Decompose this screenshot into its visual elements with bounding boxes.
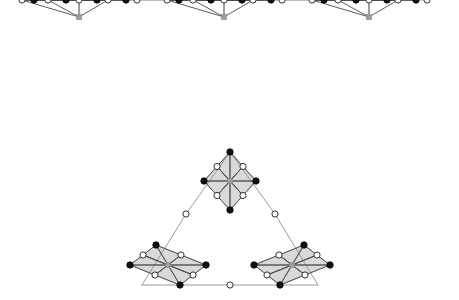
filled-node[interactable] [268, 0, 274, 3]
bottom-right-cluster-mid-node[interactable] [302, 272, 308, 278]
filled-node[interactable] [176, 0, 182, 3]
open-node[interactable] [335, 0, 341, 3]
open-node[interactable] [19, 0, 25, 3]
bottom-left-cluster-hub-node[interactable] [165, 262, 170, 267]
open-node[interactable] [279, 0, 285, 3]
open-node[interactable] [190, 0, 196, 3]
filled-node[interactable] [384, 0, 390, 3]
top-diamond-corner-node[interactable] [227, 207, 233, 213]
bottom-edge-midpoint-node[interactable] [227, 282, 233, 288]
top-diamond-corner-node[interactable] [253, 178, 259, 184]
bottom-right-cluster-mid-node[interactable] [264, 272, 270, 278]
filled-node[interactable] [123, 0, 129, 3]
bottom-left-cluster-corner-node[interactable] [203, 262, 209, 268]
open-node[interactable] [309, 0, 315, 3]
filled-node[interactable] [94, 0, 100, 3]
right-edge-midpoint-node[interactable] [272, 211, 278, 217]
filled-node[interactable] [31, 0, 37, 3]
bottom-right-cluster-corner-node[interactable] [301, 242, 307, 248]
open-node[interactable] [164, 0, 170, 3]
bottom-right-cluster-corner-node[interactable] [327, 262, 333, 268]
open-node[interactable] [134, 0, 140, 3]
figure-svg: Graph diagram: three linked fan clusters… [0, 0, 459, 300]
bottom-left-cluster-mid-node[interactable] [178, 252, 184, 258]
bottom-left-cluster-corner-node[interactable] [177, 282, 183, 288]
bottom-right-cluster-corner-node[interactable] [251, 262, 257, 268]
top-diamond-corner-node[interactable] [227, 149, 233, 155]
bottom-left-cluster-corner-node[interactable] [153, 242, 159, 248]
apex-node[interactable] [367, 15, 372, 20]
bottom-right-cluster-hub-node[interactable] [289, 262, 294, 267]
filled-node[interactable] [321, 0, 327, 3]
bottom-right-cluster-corner-node[interactable] [277, 282, 283, 288]
filled-node[interactable] [63, 0, 69, 3]
open-node[interactable] [395, 0, 401, 3]
bottom-left-cluster-mid-node[interactable] [190, 272, 196, 278]
apex-node[interactable] [77, 15, 82, 20]
filled-node[interactable] [239, 0, 245, 3]
apex-node[interactable] [222, 15, 227, 20]
top-diamond-corner-node[interactable] [201, 178, 207, 184]
top-diamond-mid-node[interactable] [214, 163, 220, 169]
figure-root: Graph diagram: three linked fan clusters… [0, 0, 459, 300]
filled-node[interactable] [353, 0, 359, 3]
bottom-left-cluster-mid-node[interactable] [152, 272, 158, 278]
bottom-right-cluster-mid-node[interactable] [276, 252, 282, 258]
open-node[interactable] [45, 0, 51, 3]
open-node[interactable] [76, 0, 82, 3]
top-diamond-hub-node[interactable] [227, 178, 232, 183]
open-node[interactable] [221, 0, 227, 3]
open-node[interactable] [105, 0, 111, 3]
open-node[interactable] [424, 0, 430, 3]
filled-node[interactable] [413, 0, 419, 3]
top-diamond-mid-node[interactable] [214, 192, 220, 198]
top-diamond-mid-node[interactable] [240, 192, 246, 198]
filled-node[interactable] [208, 0, 214, 3]
bottom-left-cluster-mid-node[interactable] [140, 252, 146, 258]
bottom-left-cluster-corner-node[interactable] [127, 262, 133, 268]
top-diamond-mid-node[interactable] [240, 163, 246, 169]
open-node[interactable] [366, 0, 372, 3]
bottom-right-cluster-mid-node[interactable] [314, 252, 320, 258]
open-node[interactable] [250, 0, 256, 3]
left-edge-midpoint-node[interactable] [183, 211, 189, 217]
